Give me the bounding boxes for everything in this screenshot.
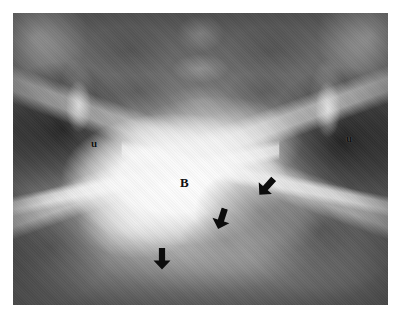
film-vignette	[13, 13, 388, 305]
ureter-label-right: u	[346, 133, 352, 144]
radiograph-image: B u u	[13, 13, 388, 305]
bladder-label: B	[180, 176, 189, 189]
annotation-arrow-icon	[153, 248, 171, 270]
ureter-label-left: u	[91, 138, 97, 149]
radiograph-figure: B u u	[0, 0, 401, 319]
